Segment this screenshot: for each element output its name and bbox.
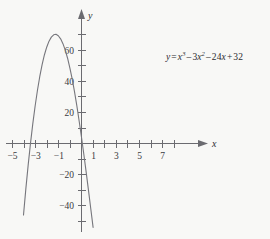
equation-equals: = bbox=[170, 52, 177, 62]
cubic-curve-overlay bbox=[0, 0, 270, 239]
cubic-curve-path bbox=[24, 34, 94, 227]
equation-term4: 32 bbox=[233, 52, 243, 62]
graph-figure: −5 −3 −1 1 3 5 7 60 40 20 −20 −40 x y y=… bbox=[0, 0, 270, 239]
equation-term3-coef: 24 bbox=[212, 52, 222, 62]
equation-op2: – bbox=[205, 52, 212, 62]
equation-annotation: y=x3–3x2–24x+32 bbox=[166, 50, 243, 62]
